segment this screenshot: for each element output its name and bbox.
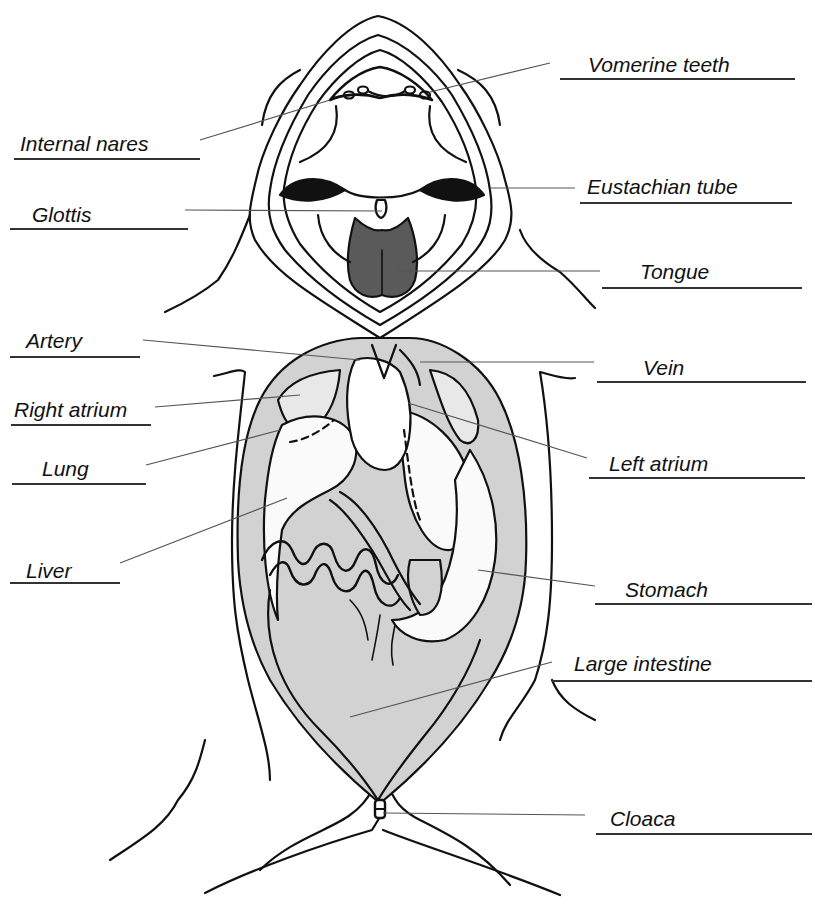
leader-glottis: [185, 210, 382, 211]
frog-anatomy-diagram: Vomerine teeth Internal nares Eustachian…: [0, 0, 815, 921]
underline-eustachian-tube: [580, 202, 792, 204]
label-vein: Vein: [643, 357, 684, 378]
label-tongue: Tongue: [640, 261, 709, 282]
underline-right-atrium: [11, 424, 151, 426]
label-lung: Lung: [42, 458, 89, 479]
leader-cloaca: [383, 813, 585, 815]
underline-large-intestine: [552, 680, 812, 682]
underline-internal-nares: [14, 158, 200, 160]
organs: [238, 338, 527, 818]
leader-internal-nares: [200, 100, 330, 140]
underline-artery: [10, 356, 140, 358]
label-liver: Liver: [26, 560, 72, 581]
underline-left-atrium: [589, 477, 805, 479]
label-internal-nares: Internal nares: [20, 133, 148, 154]
label-right-atrium: Right atrium: [14, 399, 127, 420]
underline-liver: [10, 582, 120, 584]
label-large-intestine: Large intestine: [574, 653, 712, 674]
label-eustachian-tube: Eustachian tube: [587, 176, 738, 197]
label-vomerine-teeth: Vomerine teeth: [588, 54, 730, 75]
underline-stomach: [595, 603, 812, 605]
head-outline: [165, 16, 595, 338]
underline-vomerine-teeth: [560, 78, 795, 80]
underline-lung: [12, 483, 146, 485]
underline-vein: [597, 381, 806, 383]
label-left-atrium: Left atrium: [609, 453, 708, 474]
underline-cloaca: [596, 833, 812, 835]
label-artery: Artery: [26, 330, 82, 351]
underline-tongue: [602, 287, 802, 289]
underline-glottis: [10, 228, 188, 230]
label-stomach: Stomach: [625, 579, 708, 600]
label-glottis: Glottis: [32, 204, 92, 225]
label-cloaca: Cloaca: [610, 808, 675, 829]
